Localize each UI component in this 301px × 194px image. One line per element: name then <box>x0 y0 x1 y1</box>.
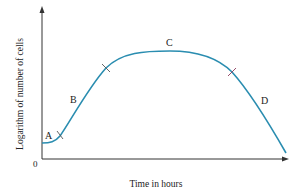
origin-label: 0 <box>33 159 38 169</box>
x-axis-arrow-icon <box>282 157 289 162</box>
growth-curve-figure: A B C D 0 Time in hours Logarithm of num… <box>0 0 301 194</box>
phase-label-c: C <box>166 37 173 48</box>
growth-curve <box>42 51 286 153</box>
y-axis-title: Logarithm of number of cells <box>15 38 25 150</box>
x-axis-title: Time in hours <box>130 179 183 189</box>
phase-label-b: B <box>70 94 77 105</box>
phase-label-a: A <box>45 130 53 141</box>
y-axis-arrow-icon <box>40 6 45 13</box>
chart-canvas: A B C D 0 Time in hours Logarithm of num… <box>0 0 301 194</box>
phase-label-d: D <box>261 95 268 106</box>
